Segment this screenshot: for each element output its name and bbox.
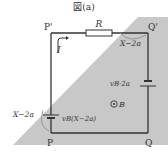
- angle-label-top: X−2a: [119, 39, 141, 48]
- angle-label-left: X−2a: [12, 110, 34, 119]
- field-dot: [113, 103, 115, 105]
- resistor-label: R: [95, 19, 103, 29]
- circuit-diagram: 図(a) P' Q' P Q R I B X−2a X−2a vB·2a vB(…: [0, 0, 168, 157]
- field-label: B: [118, 100, 125, 109]
- emf-label-right: vB·2a: [110, 80, 130, 88]
- current-label: I: [56, 45, 61, 55]
- current-arrowhead-icon: [66, 36, 69, 40]
- corner-label-p: P: [47, 138, 53, 148]
- figure-title: 図(a): [73, 2, 94, 12]
- corner-label-p-prime: P': [44, 22, 53, 32]
- resistor: [86, 30, 112, 36]
- corner-label-q: Q: [145, 138, 152, 148]
- corner-label-q-prime: Q': [148, 22, 158, 32]
- emf-label-left: vB(X−2a): [62, 115, 96, 123]
